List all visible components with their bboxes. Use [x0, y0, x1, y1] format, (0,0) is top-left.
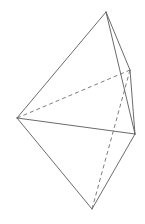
- edge-layer: [17, 12, 135, 209]
- edge-left-right: [17, 118, 135, 134]
- polyhedron-drawing: Bipyramid wireframe line drawing: [0, 0, 145, 224]
- edge-left-back: [17, 70, 130, 118]
- edge-back-bottom: [92, 70, 130, 209]
- geometry-figure-canvas: Bipyramid wireframe line drawing: [0, 0, 145, 224]
- edge-apex-left: [17, 12, 106, 118]
- edge-left-bottom: [17, 118, 92, 209]
- edge-right-bottom: [92, 134, 135, 209]
